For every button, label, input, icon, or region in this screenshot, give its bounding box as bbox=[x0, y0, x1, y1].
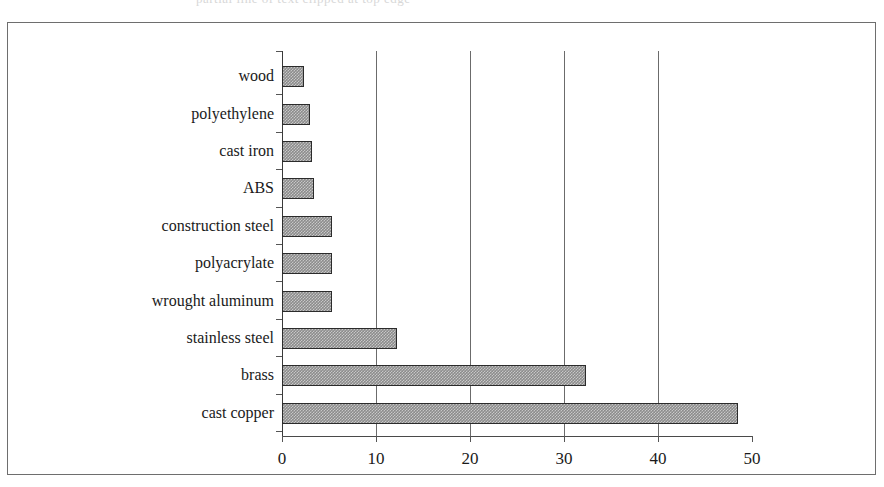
y-axis-category-label: polyethylene bbox=[191, 106, 274, 122]
bar bbox=[282, 66, 304, 87]
x-axis-tick bbox=[658, 436, 659, 442]
y-axis-tick bbox=[276, 132, 282, 133]
chart-frame: 01020304050woodpolyethylenecast ironABSc… bbox=[7, 22, 876, 475]
y-axis-tick bbox=[276, 319, 282, 320]
gridline bbox=[658, 51, 659, 436]
y-axis-tick bbox=[276, 244, 282, 245]
x-axis-tick bbox=[752, 436, 753, 442]
y-axis-category-label: stainless steel bbox=[186, 330, 274, 346]
category-label-row: polyethylene bbox=[8, 106, 274, 128]
x-axis-tick-label: 40 bbox=[638, 450, 678, 467]
category-label-row: cast copper bbox=[8, 405, 274, 427]
y-axis-tick bbox=[276, 51, 282, 52]
x-axis-tick-label: 10 bbox=[356, 450, 396, 467]
category-label-row: wood bbox=[8, 68, 274, 90]
bar bbox=[282, 216, 332, 237]
x-axis-tick-label: 20 bbox=[450, 450, 490, 467]
y-axis-category-label: wood bbox=[238, 68, 274, 84]
x-axis-tick bbox=[564, 436, 565, 442]
category-label-row: wrought aluminum bbox=[8, 293, 274, 315]
y-axis-tick bbox=[276, 356, 282, 357]
x-axis-tick-label: 0 bbox=[262, 450, 302, 467]
y-axis-tick bbox=[276, 281, 282, 282]
x-axis-tick bbox=[282, 436, 283, 442]
y-axis-category-label: wrought aluminum bbox=[152, 293, 274, 309]
y-axis-category-label: polyacrylate bbox=[195, 255, 274, 271]
category-label-row: stainless steel bbox=[8, 330, 274, 352]
bar bbox=[282, 178, 314, 199]
y-axis-tick bbox=[276, 394, 282, 395]
y-axis-tick bbox=[276, 169, 282, 170]
bar bbox=[282, 328, 397, 349]
y-axis-tick bbox=[276, 431, 282, 432]
bar bbox=[282, 253, 332, 274]
x-axis-tick-label: 30 bbox=[544, 450, 584, 467]
y-axis-category-label: construction steel bbox=[162, 218, 274, 234]
category-label-row: construction steel bbox=[8, 218, 274, 240]
x-axis-tick bbox=[376, 436, 377, 442]
x-axis-tick-label: 50 bbox=[732, 450, 772, 467]
bar bbox=[282, 291, 332, 312]
category-label-row: polyacrylate bbox=[8, 255, 274, 277]
y-axis-category-label: cast copper bbox=[202, 405, 274, 421]
bar bbox=[282, 403, 738, 424]
clipped-top-text-strip: partial line of text clipped at top edge bbox=[0, 0, 884, 14]
y-axis-category-label: cast iron bbox=[219, 143, 274, 159]
category-label-row: brass bbox=[8, 367, 274, 389]
y-axis-category-label: ABS bbox=[243, 180, 274, 196]
y-axis-tick bbox=[276, 207, 282, 208]
y-axis-tick bbox=[276, 94, 282, 95]
category-label-row: ABS bbox=[8, 180, 274, 202]
bar bbox=[282, 104, 310, 125]
bar-chart-plot: 01020304050woodpolyethylenecast ironABSc… bbox=[8, 23, 877, 476]
clipped-top-text: partial line of text clipped at top edge bbox=[196, 0, 411, 7]
bar bbox=[282, 365, 586, 386]
x-axis-tick bbox=[470, 436, 471, 442]
bar bbox=[282, 141, 312, 162]
category-label-row: cast iron bbox=[8, 143, 274, 165]
y-axis-category-label: brass bbox=[241, 367, 274, 383]
x-axis-baseline bbox=[282, 436, 752, 437]
